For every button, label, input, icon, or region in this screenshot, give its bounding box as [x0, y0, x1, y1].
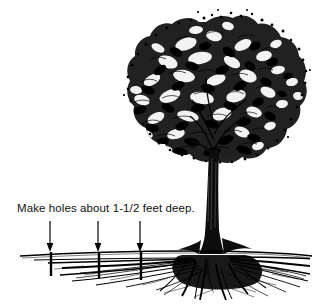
down-arrow: [47, 221, 54, 252]
down-arrow: [95, 221, 102, 252]
illustration-canvas: [0, 0, 326, 304]
tree-planting-illustration: Make holes about 1-1/2 feet deep.: [0, 0, 326, 304]
instruction-caption: Make holes about 1-1/2 feet deep.: [17, 202, 195, 215]
annotation-arrows: [47, 221, 144, 252]
tree-canopy: [123, 9, 311, 164]
down-arrow: [137, 221, 144, 252]
root-system: [34, 253, 314, 300]
